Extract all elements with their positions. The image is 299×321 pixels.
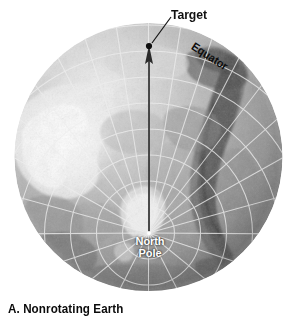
nonrotating-earth-figure: Target Equator North Pole A. Nonrotating… — [0, 0, 299, 321]
target-label: Target — [171, 7, 207, 22]
figure-caption: A. Nonrotating Earth — [8, 302, 124, 316]
north-pole-label-line2: Pole — [133, 248, 167, 260]
north-pole-label: North Pole — [133, 236, 167, 259]
north-pole-label-line1: North — [133, 236, 167, 248]
